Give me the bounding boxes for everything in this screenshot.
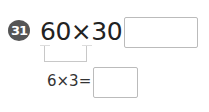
- bracket-left-line: [44, 46, 45, 61]
- bracket-tick-left: [40, 45, 50, 46]
- main-answer-box[interactable]: [124, 17, 198, 48]
- hint-answer-box[interactable]: [93, 67, 138, 98]
- bracket-tick-right: [82, 45, 92, 46]
- bracket-right-line: [86, 46, 87, 61]
- hint-equation: 6×3=: [47, 71, 91, 91]
- bracket-bottom-line: [44, 61, 87, 62]
- problem-number-badge: 31: [8, 20, 30, 41]
